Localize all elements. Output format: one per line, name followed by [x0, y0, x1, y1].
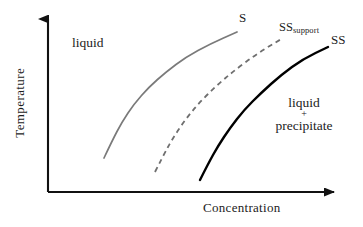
curve-label-ss: SS	[331, 33, 345, 47]
region-label-liquid-precipitate: liquid + precipitate	[256, 96, 352, 133]
x-axis-title: Concentration	[203, 201, 281, 215]
phase-diagram-figure: Temperature Concentration S SSsupport SS…	[0, 0, 363, 227]
region-label-line-precipitate: precipitate	[256, 119, 352, 133]
region-label-liquid: liquid	[72, 36, 104, 50]
y-axis-title: Temperature	[13, 43, 27, 163]
curve-label-ss-support-subscript: support	[293, 25, 319, 35]
curve-label-ss-support: SSsupport	[279, 21, 319, 35]
curve-label-s: S	[239, 11, 246, 25]
curve-s	[104, 32, 237, 158]
curve-label-ss-support-main: SS	[279, 20, 293, 34]
